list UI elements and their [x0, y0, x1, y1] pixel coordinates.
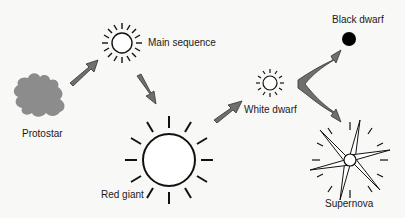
arrow-protostar-to-main-sequence	[70, 60, 98, 86]
label-protostar: Protostar	[22, 128, 63, 139]
small-sun-icon	[256, 69, 284, 97]
label-supernova: Supernova	[325, 198, 373, 209]
arrow-white-dwarf-fork	[298, 50, 341, 122]
arrow-red-giant-to-white-dwarf	[214, 101, 242, 123]
starburst-icon	[310, 120, 390, 200]
stellar-evolution-diagram: Main sequence Protostar Red giant White …	[0, 0, 405, 218]
label-main-sequence: Main sequence	[148, 37, 216, 48]
label-red-giant: Red giant	[101, 189, 144, 200]
label-black-dwarf: Black dwarf	[332, 14, 384, 25]
arrow-main-sequence-to-red-giant	[137, 74, 156, 104]
label-white-dwarf: White dwarf	[244, 104, 297, 115]
filled-circle-icon	[342, 32, 356, 46]
cloud-blob-icon	[14, 73, 65, 116]
sun-icon	[102, 23, 142, 63]
